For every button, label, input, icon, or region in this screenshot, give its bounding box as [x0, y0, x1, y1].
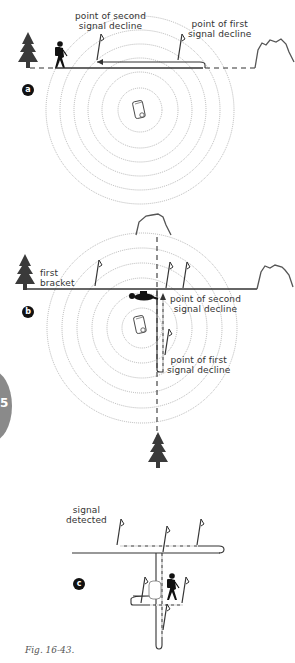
tree-icon [15, 254, 35, 290]
flag-icon [178, 34, 185, 60]
label-line: point of first [188, 19, 251, 29]
figure-caption: Fig. 16-43. [25, 645, 74, 655]
panel-badge-c: c [73, 578, 85, 590]
flag-icon [163, 604, 170, 630]
flag-icon [183, 262, 190, 288]
label-c-signal-detected: signal detected [66, 505, 107, 525]
label-line: signal decline [170, 304, 241, 314]
flag-icon [95, 260, 102, 286]
mountain-icon [136, 214, 171, 235]
label-line: signal [66, 505, 107, 515]
panel-a [18, 16, 294, 204]
label-line: signal decline [167, 365, 230, 375]
label-a-second-decline: point of second signal decline [75, 11, 146, 31]
label-b-first-bracket: first bracket [40, 268, 75, 288]
panel-b [15, 214, 293, 468]
label-line: point of second [170, 294, 241, 304]
avalanche-beacon-icon [132, 100, 145, 119]
panel-c [72, 519, 224, 649]
avalanche-beacon-icon [133, 315, 146, 334]
arrow-head-icon [160, 293, 166, 300]
hiker-icon [55, 41, 67, 68]
label-line: detected [66, 515, 107, 525]
tree-icon [148, 432, 168, 468]
mountain-icon [255, 39, 294, 68]
flag-icon [182, 577, 189, 603]
flag-icon [141, 577, 148, 603]
rescuer-probing-icon [129, 291, 158, 301]
panel-badge-a: a [22, 84, 34, 96]
label-line: point of second [75, 11, 146, 21]
flag-icon [163, 526, 170, 552]
flag-icon [197, 519, 204, 545]
label-line: signal decline [188, 29, 251, 39]
diagram-canvas [0, 0, 295, 663]
flag-icon [117, 519, 124, 545]
label-line: point of first [167, 355, 230, 365]
label-line: bracket [40, 278, 75, 288]
tree-icon [18, 32, 38, 68]
hiker-icon [167, 573, 179, 600]
label-line: signal decline [75, 21, 146, 31]
mountain-icon [257, 265, 293, 289]
arrow-head-icon [97, 59, 103, 65]
label-b-first-decline: point of first signal decline [167, 355, 230, 375]
label-b-second-decline: point of second signal decline [170, 294, 241, 314]
flag-icon [165, 329, 172, 355]
label-a-first-decline: point of first signal decline [188, 19, 251, 39]
avalanche-beacon-icon [149, 581, 161, 599]
panel-badge-b: b [22, 306, 34, 318]
flag-icon [166, 262, 173, 288]
label-line: first [40, 268, 75, 278]
flag-icon [97, 34, 104, 60]
